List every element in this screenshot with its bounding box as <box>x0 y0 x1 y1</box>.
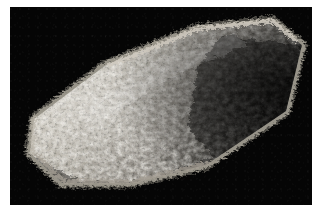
left-cut-edge <box>32 119 34 153</box>
trabecular-bone-rendering <box>10 7 312 205</box>
specimen-layer <box>10 7 312 205</box>
image-canvas <box>10 7 312 205</box>
figure-root: Trabecular bone specimen volume renderin… <box>0 0 325 219</box>
